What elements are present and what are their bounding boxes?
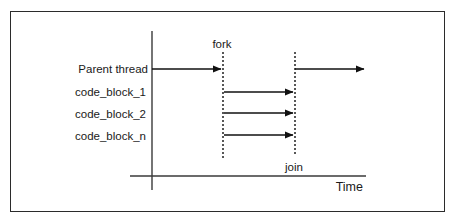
fork-join-diagram: Parent thread code_block_1 code_block_2 …: [0, 0, 454, 223]
row-label-code-block-n: code_block_n: [75, 130, 146, 142]
fork-label: fork: [212, 38, 231, 50]
row-label-code-block-2: code_block_2: [75, 108, 146, 120]
row-label-parent-thread: Parent thread: [78, 63, 148, 75]
join-label: join: [284, 161, 303, 173]
time-axis-label: Time: [336, 180, 363, 194]
row-label-code-block-1: code_block_1: [75, 86, 146, 98]
